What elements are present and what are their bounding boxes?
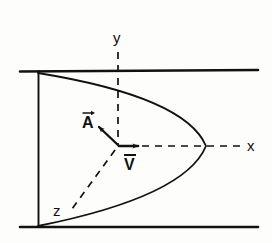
figure-canvas [0,0,272,243]
velocity-profile-figure: y x z A V [0,0,272,243]
vector-v-label: V [124,152,135,173]
vector-a-label: A [82,110,94,131]
z-axis-label: z [53,203,61,218]
z-axis-dashed-line [69,150,115,213]
y-axis-label: y [113,30,121,45]
vector-a-arrow [99,127,118,145]
vector-a-glyph: A [82,115,94,131]
vector-v-overbar-icon [124,154,136,156]
velocity-profile-curve [38,73,206,226]
vector-a-label-wrap: A [82,110,94,131]
x-axis-label: x [247,138,255,153]
vector-v-label-wrap: V [124,152,135,173]
vector-a-overarrow-icon [82,110,95,116]
top-wall-line [20,70,258,72]
vector-v-glyph: V [124,157,135,173]
